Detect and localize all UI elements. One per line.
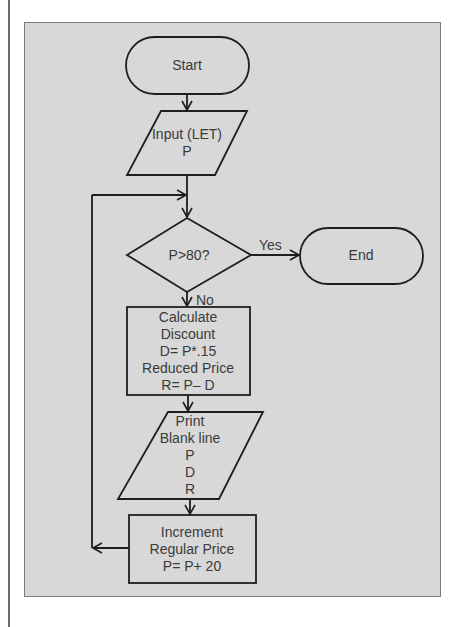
print-line-3: P: [160, 447, 221, 464]
calculate-line-1: Calculate: [142, 309, 234, 326]
start-label: Start: [172, 57, 202, 74]
calculate-line-4: Reduced Price: [142, 360, 234, 377]
print-line-5: R: [160, 481, 221, 498]
increment-label: Increment Regular Price P= P+ 20: [150, 524, 235, 575]
increment-line-1: Increment: [150, 524, 235, 541]
end-label: End: [349, 247, 374, 264]
calculate-line-3: D= P*.15: [142, 343, 234, 360]
print-label: Print Blank line P D R: [160, 413, 221, 498]
print-line-2: Blank line: [160, 430, 221, 447]
calculate-line-2: Discount: [142, 326, 234, 343]
decision-label: P>80?: [169, 247, 210, 264]
calculate-line-5: R= P– D: [142, 377, 234, 394]
yes-edge-label: Yes: [259, 237, 282, 253]
increment-line-2: Regular Price: [150, 541, 235, 558]
input-label: Input (LET) P: [152, 126, 222, 160]
increment-line-3: P= P+ 20: [150, 558, 235, 575]
print-line-4: D: [160, 464, 221, 481]
input-line-1: Input (LET): [152, 126, 222, 143]
input-line-2: P: [152, 143, 222, 160]
no-edge-label: No: [196, 292, 214, 308]
calculate-label: Calculate Discount D= P*.15 Reduced Pric…: [142, 309, 234, 394]
print-line-1: Print: [160, 413, 221, 430]
